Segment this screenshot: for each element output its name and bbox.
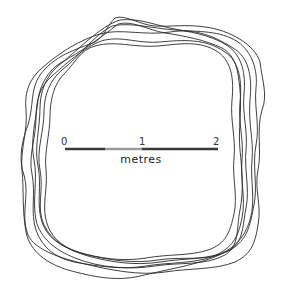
loop-4 — [39, 25, 258, 264]
scale-tick-2: 2 — [213, 136, 219, 147]
scale-tick-0: 0 — [61, 136, 67, 147]
trajectory-diagram: 0 1 2 metres — [0, 0, 284, 299]
scale-tick-1: 1 — [139, 136, 145, 147]
scale-unit-label: metres — [120, 153, 162, 166]
loop-7 — [45, 44, 236, 260]
scale-bar: 0 1 2 metres — [61, 136, 219, 166]
